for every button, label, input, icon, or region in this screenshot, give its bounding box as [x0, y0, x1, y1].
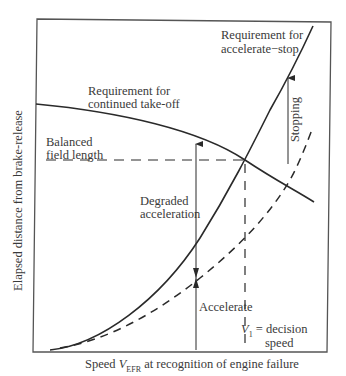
diagram-canvas: [0, 0, 346, 376]
label-v1-line2: speed: [265, 336, 293, 350]
label-accel-stop-2: accelerate−stop: [221, 42, 299, 56]
label-continued-1: Requirement for: [88, 84, 170, 98]
v1-var: V: [241, 322, 249, 336]
x-axis-label: Speed VEFR at recognition of engine fail…: [85, 357, 299, 376]
y-axis-label: Elapsed distance from brake-release: [11, 101, 26, 301]
v1-eq: = decision: [253, 322, 308, 336]
label-balanced-2: field length: [46, 148, 103, 162]
accelerate-stop-curve: [50, 26, 313, 350]
label-stopping: Stopping: [288, 80, 303, 160]
label-degraded-2: acceleration: [140, 207, 200, 221]
x-label-prefix: Speed: [85, 357, 119, 371]
label-balanced-1: Balanced: [46, 135, 93, 149]
label-accelerate: Accelerate: [199, 300, 252, 314]
label-accel-stop-1: Requirement for: [221, 28, 303, 42]
accelerate-marker: [193, 268, 199, 288]
x-label-sub: EFR: [126, 365, 141, 374]
label-degraded-1: Degraded: [140, 194, 189, 208]
x-label-suffix: at recognition of engine failure: [141, 357, 299, 371]
label-continued-2: continued take-off: [88, 97, 180, 111]
